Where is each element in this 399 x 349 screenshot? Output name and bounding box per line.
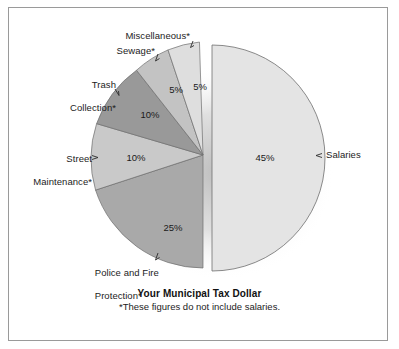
caption-block: Your Municipal Tax Dollar *These figures… [0, 288, 399, 312]
label-street-maintenance-line2: Maintenance* [33, 176, 92, 187]
slice-value-miscellaneous: 5% [193, 81, 207, 92]
label-trash-collection: Trash Collection* [50, 67, 116, 125]
label-trash-collection-line1: Trash [92, 79, 116, 90]
slice-value-sewage: 5% [169, 84, 183, 95]
label-sewage: Sewage* [93, 45, 155, 57]
label-trash-collection-line2: Collection* [70, 102, 116, 113]
label-street-maintenance: Street Maintenance* [21, 141, 92, 199]
figure-root: 45% 25% 10% 10% 5% 5% Salaries Miscellan… [0, 0, 399, 349]
chart-title: Your Municipal Tax Dollar [0, 288, 399, 299]
slice-value-salaries: 45% [255, 152, 275, 163]
slice-value-street-maintenance: 10% [126, 152, 146, 163]
slice-value-police-fire: 25% [163, 222, 183, 233]
slice-value-trash-collection: 10% [140, 109, 160, 120]
label-salaries: Salaries [326, 149, 361, 161]
label-police-fire-line1: Police and Fire [95, 267, 159, 278]
chart-subtitle: *These figures do not include salaries. [0, 301, 399, 312]
label-miscellaneous: Miscellaneous* [110, 30, 190, 42]
label-street-maintenance-line1: Street [66, 153, 92, 164]
